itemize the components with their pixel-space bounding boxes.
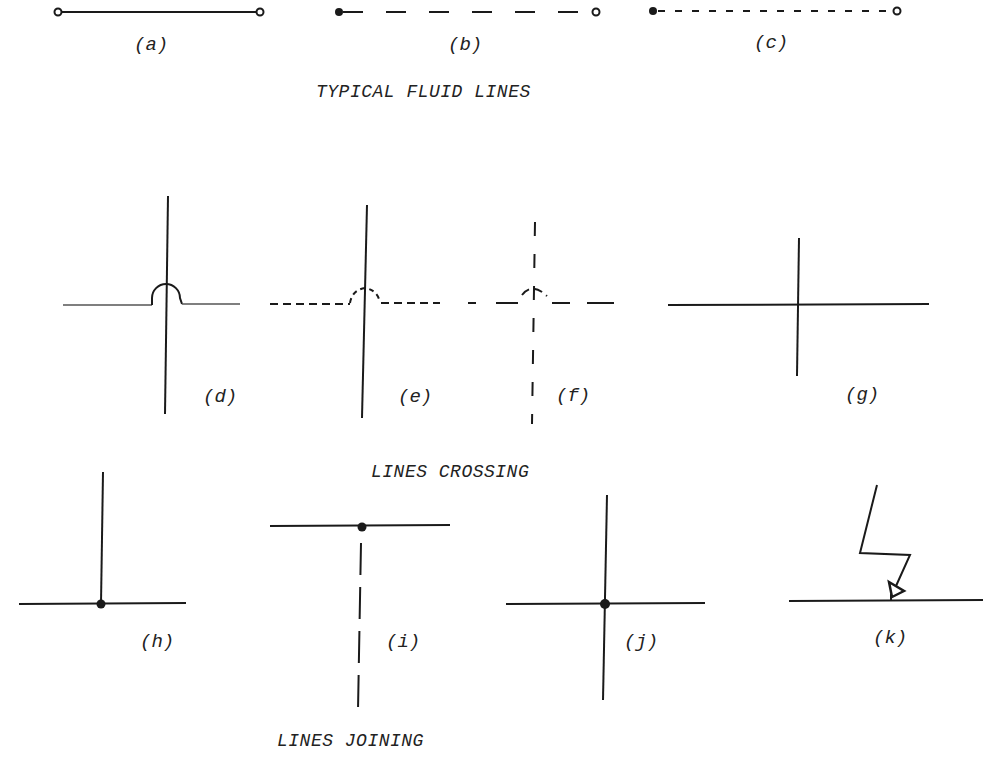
open-circle-icon [257, 9, 264, 16]
figure-b: (b) [335, 8, 600, 56]
junction-dot-icon [358, 523, 367, 532]
figure-h: (h) [19, 472, 186, 653]
figure-label-h: (h) [140, 631, 174, 653]
dashed-vertical-line [358, 543, 361, 710]
figure-label-a: (a) [134, 34, 168, 56]
section-title-fluid-lines: TYPICAL FLUID LINES [316, 82, 531, 102]
zigzag-signal-line [860, 485, 910, 586]
fluid-lines-diagram: (a) (b) (c) TYPICAL FLUID LINES (d) (e) [0, 0, 999, 780]
filled-dot-icon [649, 7, 657, 15]
figure-label-e: (e) [398, 386, 432, 408]
dashed-vertical-line [532, 222, 535, 424]
figure-g: (g) [668, 238, 929, 406]
vertical-line [101, 472, 103, 604]
figure-label-b: (b) [448, 34, 482, 56]
section-title-joining: LINES JOINING [277, 731, 424, 751]
figure-label-k: (k) [873, 627, 907, 649]
figure-k: (k) [789, 485, 983, 649]
vertical-line [797, 238, 799, 376]
figure-j: (j) [506, 495, 705, 700]
figure-label-d: (d) [203, 386, 237, 408]
open-circle-icon [593, 9, 600, 16]
vertical-line [362, 205, 367, 418]
junction-dot-icon [600, 599, 610, 609]
filled-dot-icon [335, 8, 343, 16]
figure-label-i: (i) [386, 631, 420, 653]
figure-e: (e) [270, 205, 440, 418]
open-circle-icon [55, 9, 62, 16]
vertical-line [165, 196, 168, 414]
figure-f: (f) [468, 222, 614, 424]
figure-label-f: (f) [556, 385, 590, 407]
figure-d: (d) [63, 196, 240, 414]
open-circle-icon [894, 8, 901, 15]
section-title-crossing: LINES CROSSING [371, 462, 529, 482]
horizontal-line [789, 600, 983, 601]
figure-label-g: (g) [845, 384, 879, 406]
figure-i: (i) [270, 523, 450, 711]
figure-a: (a) [55, 9, 264, 57]
junction-dot-icon [97, 600, 106, 609]
figure-label-c: (c) [754, 32, 788, 54]
vertical-line [603, 495, 607, 700]
figure-label-j: (j) [624, 631, 658, 653]
figure-c: (c) [649, 7, 901, 54]
